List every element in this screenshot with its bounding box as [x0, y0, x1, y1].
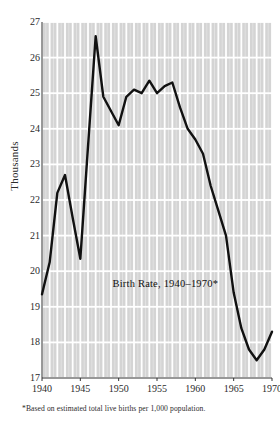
y-tick-label: 24: [18, 124, 40, 134]
x-tick-label: 1960: [175, 383, 215, 394]
y-tick-label: 19: [18, 302, 40, 312]
x-axis-tick-labels: 1940194519501955196019651970: [0, 383, 280, 397]
gridline-horizontal: [42, 199, 272, 201]
y-tick-label: 20: [18, 266, 40, 276]
y-axis-tick-labels: 1718192021222324252627: [18, 0, 40, 427]
y-tick-label: 26: [18, 53, 40, 63]
y-tick-label: 17: [18, 373, 40, 383]
chart-title: Birth Rate, 1940–1970*: [113, 278, 219, 289]
x-tick-label: 1970: [252, 383, 280, 394]
gridline-horizontal: [42, 164, 272, 166]
y-tick-label: 23: [18, 159, 40, 169]
x-tick-label: 1965: [214, 383, 254, 394]
gridline-horizontal: [42, 21, 272, 23]
y-tick-label: 27: [18, 17, 40, 27]
x-tick-label: 1940: [22, 383, 62, 394]
y-tick-label: 25: [18, 88, 40, 98]
y-tick-label: 18: [18, 337, 40, 347]
gridline-horizontal: [42, 128, 272, 130]
x-tick-label: 1955: [137, 383, 177, 394]
y-tick-label: 21: [18, 231, 40, 241]
gridline-horizontal: [42, 270, 272, 272]
plot-area: [0, 0, 280, 427]
gridline-horizontal: [42, 342, 272, 344]
chart-footnote: *Based on estimated total live births pe…: [22, 404, 272, 413]
x-tick-label: 1950: [99, 383, 139, 394]
gridline-horizontal: [42, 57, 272, 59]
birth-rate-chart-figure: Thousands 1718192021222324252627 Birth R…: [0, 0, 280, 427]
x-tick-label: 1945: [60, 383, 100, 394]
y-tick-label: 22: [18, 195, 40, 205]
